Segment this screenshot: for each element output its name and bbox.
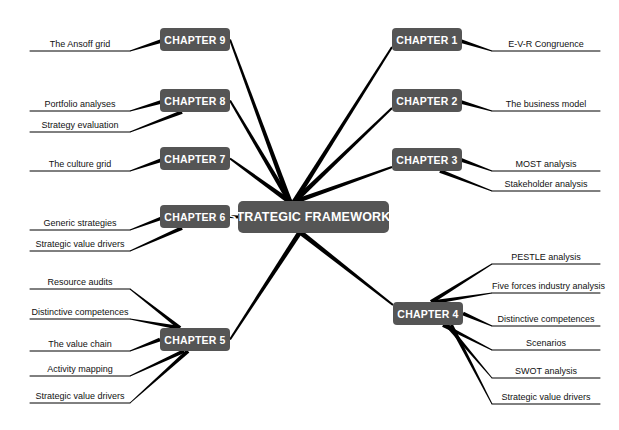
topic-five-forces: Five forces industry analysis — [492, 280, 600, 292]
topic-generic-strategies: Generic strategies — [30, 217, 130, 229]
chapter-node-9: CHAPTER 9 — [160, 28, 230, 51]
topic-swot-analysis: SWOT analysis — [492, 365, 600, 377]
mind-map: STRATEGIC FRAMEWORKS CHAPTER 1 CHAPTER 2… — [0, 0, 619, 430]
topic-pestle-analysis: PESTLE analysis — [492, 251, 600, 263]
chapter-node-2: CHAPTER 2 — [392, 89, 462, 112]
chapter-node-5: CHAPTER 5 — [160, 328, 230, 351]
topic-distinctive-competences-ch5: Distinctive competences — [30, 306, 130, 318]
chapter-node-8: CHAPTER 8 — [160, 89, 230, 112]
topic-distinctive-competences-ch4: Distinctive competences — [492, 313, 600, 325]
topic-evr-congruence: E-V-R Congruence — [492, 38, 600, 50]
topic-resource-audits: Resource audits — [30, 276, 130, 288]
chapter-node-7: CHAPTER 7 — [160, 147, 230, 170]
topic-strategic-value-drivers-ch6: Strategic value drivers — [30, 238, 130, 250]
chapter-node-1: CHAPTER 1 — [392, 28, 462, 51]
topic-strategic-value-drivers-ch5: Strategic value drivers — [30, 390, 130, 402]
topic-scenarios: Scenarios — [492, 337, 600, 349]
topic-value-chain: The value chain — [30, 338, 130, 350]
topic-most-analysis: MOST analysis — [492, 158, 600, 170]
topic-culture-grid: The culture grid — [30, 158, 130, 170]
chapter-node-3: CHAPTER 3 — [392, 148, 462, 171]
topic-portfolio-analyses: Portfolio analyses — [30, 98, 130, 110]
topic-activity-mapping: Activity mapping — [30, 363, 130, 375]
chapter-node-4: CHAPTER 4 — [393, 302, 463, 325]
topic-strategic-value-drivers-ch4: Strategic value drivers — [492, 391, 600, 403]
topic-ansoff-grid: The Ansoff grid — [30, 38, 130, 50]
topic-stakeholder-analysis: Stakeholder analysis — [492, 178, 600, 190]
center-node-strategic-frameworks: STRATEGIC FRAMEWORKS — [238, 201, 389, 233]
topic-strategy-evaluation: Strategy evaluation — [30, 119, 130, 131]
topic-business-model: The business model — [492, 98, 600, 110]
chapter-node-6: CHAPTER 6 — [160, 205, 230, 228]
